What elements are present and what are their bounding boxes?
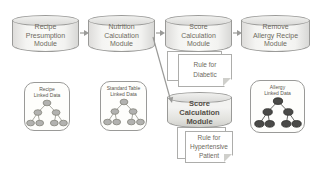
folded-corner-icon [223,78,231,86]
linked-data-box-recipe: Recipe Linked Data [24,82,70,131]
module-label: Score Calculation Module [165,23,232,49]
linked-data-tree-icon [26,99,68,127]
module-label: Recipe Presumption Module [12,23,79,49]
module-cylinder-score-calculation-top: Score Calculation Module [165,15,232,52]
linked-data-box-standard-table: Standard Table Linked Data [100,81,147,131]
module-cylinder-score-calculation-bottom: Score Calculation Module [167,92,232,128]
rule-note-label: Rule for Diabetic [178,60,232,79]
linked-data-box-allergy: Allergy Linked Data [250,80,305,133]
module-cylinder-nutrition-calculation: Nutrition Calculation Module [88,15,155,52]
pipeline-diagram: Rule for Diabetic Rule for Hypertensive … [0,0,316,171]
linked-data-tree-icon [254,97,302,128]
module-label: Score Calculation Module [167,99,232,126]
module-cylinder-recipe-presumption: Recipe Presumption Module [12,15,79,52]
module-label: Nutrition Calculation Module [88,23,155,49]
module-cylinder-remove-allergy-recipe: Remove Allergy Recipe Module [241,15,310,52]
module-label: Remove Allergy Recipe Module [241,23,310,49]
linked-data-label: Recipe Linked Data [25,86,69,98]
linked-data-label: Allergy Linked Data [251,84,304,96]
linked-data-label: Standard Table Linked Data [101,85,146,97]
linked-data-tree-icon [103,98,145,126]
rule-note-label: Rule for Hypertensive Patient [185,133,233,160]
